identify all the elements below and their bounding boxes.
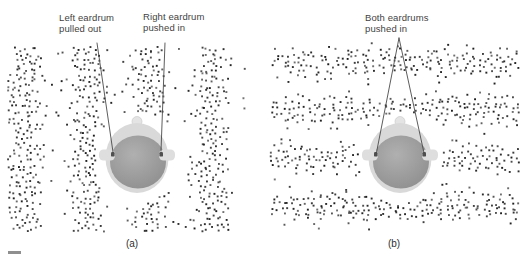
left-eardrum-label: Left eardrum pulled out [59,12,114,34]
right-eardrum-label-line2: pushed in [143,22,205,33]
left-eardrum-label-line2: pulled out [59,23,114,34]
left-eardrum-label-line1: Left eardrum [59,12,114,23]
both-eardrums-label-line1: Both eardrums [365,12,429,23]
panel-b-drawing [266,0,522,262]
right-eardrum-label: Right eardrum pushed in [143,11,205,33]
panel-b-caption: (b) [266,238,522,249]
panel-a-caption: (a) [4,238,260,249]
figure: Left eardrum pulled out Right eardrum pu… [0,0,526,262]
panel-b: Both eardrums pushed in (b) [266,0,522,262]
right-eardrum-label-line1: Right eardrum [143,11,205,22]
both-eardrums-label: Both eardrums pushed in [365,12,429,34]
panel-a: Left eardrum pulled out Right eardrum pu… [4,0,260,262]
both-eardrums-label-line2: pushed in [365,23,429,34]
panel-a-drawing [4,0,260,262]
figure-number-dash [8,251,21,254]
